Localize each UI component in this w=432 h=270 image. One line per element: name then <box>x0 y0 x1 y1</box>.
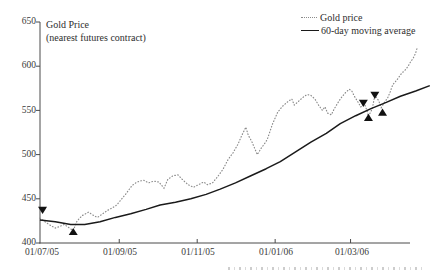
buy-signal-up-triangle-icon <box>69 228 78 235</box>
solid-line-swatch <box>301 30 319 31</box>
legend-item-moving-average: 60-day moving average <box>301 24 415 37</box>
x-tick-label-010905: 01/09/05 <box>90 247 150 258</box>
x-tick-label-010705: 01/07/05 <box>12 247 72 258</box>
y-tick-label-650: 650 <box>2 16 36 27</box>
x-tick-label-011105: 01/11/05 <box>168 247 228 258</box>
buy-signal-up-triangle-icon <box>364 114 373 121</box>
sell-signal-down-triangle-icon <box>359 100 368 107</box>
chart-title-line2: (nearest futures contract) <box>46 31 146 44</box>
gold-price-chart: Gold Price (nearest futures contract) Go… <box>0 0 432 270</box>
x-tick-label-010306: 01/03/06 <box>322 247 382 258</box>
legend-label-moving-average: 60-day moving average <box>321 24 415 37</box>
buy-signal-up-triangle-icon <box>378 109 387 116</box>
y-tick-label-600: 600 <box>2 60 36 71</box>
chart-title: Gold Price (nearest futures contract) <box>46 18 146 44</box>
dotted-line-swatch <box>301 17 317 18</box>
x-tick-label-010106: 01/01/06 <box>246 247 306 258</box>
legend-label-gold-price: Gold price <box>320 11 363 24</box>
sell-signal-down-triangle-icon <box>38 207 47 214</box>
gold-price-line <box>40 49 417 231</box>
y-tick-label-500: 500 <box>2 149 36 160</box>
y-tick-label-450: 450 <box>2 193 36 204</box>
legend-item-gold-price: Gold price <box>301 11 415 24</box>
chart-title-line1: Gold Price <box>46 18 146 31</box>
y-tick-label-550: 550 <box>2 105 36 116</box>
sell-signal-down-triangle-icon <box>370 92 379 99</box>
legend: Gold price 60-day moving average <box>301 11 415 37</box>
moving-average-line <box>40 86 430 225</box>
